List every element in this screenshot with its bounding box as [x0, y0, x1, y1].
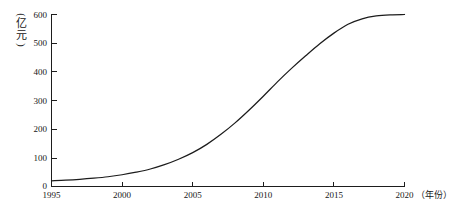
y-axis-ticks	[52, 15, 57, 159]
data-series-line	[52, 15, 405, 181]
chart-canvas: 600 500 400 300 200 100 0 1995 2000 2005…	[0, 0, 458, 215]
x-tick-label-2010: 2010	[254, 190, 273, 200]
y-axis-unit-label: ( 亿 元 )	[11, 12, 31, 48]
x-tick-label-2015: 2015	[325, 190, 344, 200]
y-tick-label-200: 200	[34, 124, 48, 134]
y-tick-label-100: 100	[34, 153, 48, 163]
y-tick-label-500: 500	[34, 38, 48, 48]
x-axis-tick-labels: 1995 2000 2005 2010 2015 2020	[43, 190, 415, 200]
y-axis-unit-open-paren: (	[18, 5, 24, 25]
y-axis-unit-close-paren: )	[18, 35, 24, 55]
y-tick-label-600: 600	[34, 10, 48, 20]
x-axis-unit-label: （年份）	[416, 189, 452, 200]
x-tick-label-2000: 2000	[113, 190, 132, 200]
y-axis-tick-labels: 600 500 400 300 200 100 0	[34, 10, 48, 192]
x-axis-ticks	[52, 182, 405, 187]
x-tick-label-2005: 2005	[184, 190, 203, 200]
y-tick-label-300: 300	[34, 96, 48, 106]
sigmoid-line-chart: 600 500 400 300 200 100 0 1995 2000 2005…	[0, 0, 458, 215]
y-tick-label-400: 400	[34, 67, 48, 77]
x-tick-label-1995: 1995	[43, 190, 62, 200]
x-tick-label-2020: 2020	[396, 190, 415, 200]
